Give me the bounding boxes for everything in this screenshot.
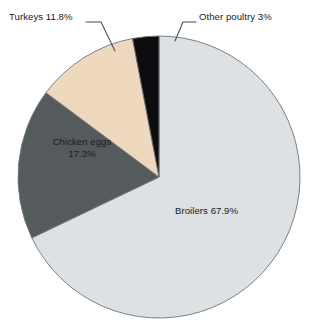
slice-label-chicken-eggs: Chicken eggs 17.3%	[38, 136, 126, 159]
slice-label-chicken-eggs-value: 17.3%	[38, 148, 126, 160]
slice-label-broilers: Broilers 67.9%	[175, 205, 238, 217]
pie-chart: Turkeys 11.8% Other poultry 3% Chicken e…	[0, 0, 310, 331]
pie-slices	[18, 36, 300, 318]
pie-chart-canvas	[0, 0, 310, 331]
slice-label-turkeys: Turkeys 11.8%	[9, 11, 73, 23]
slice-label-other-poultry: Other poultry 3%	[199, 11, 272, 23]
slice-label-chicken-eggs-name: Chicken eggs	[38, 136, 126, 148]
